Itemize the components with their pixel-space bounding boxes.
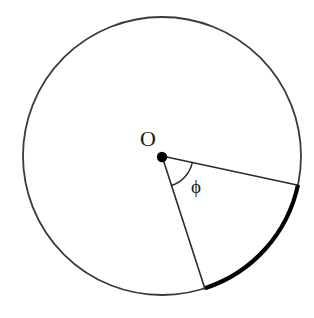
angle-label-phi: ϕ (191, 176, 201, 197)
center-point-O (157, 152, 167, 162)
circle-sector-diagram: O ϕ (0, 0, 314, 318)
figure-container: O ϕ (0, 0, 314, 318)
background-rect (0, 0, 314, 318)
center-label-O: O (140, 126, 156, 151)
